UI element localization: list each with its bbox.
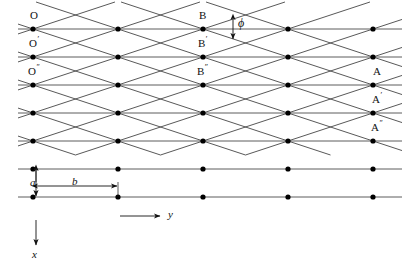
lattice-point-r5-c0 (30, 166, 35, 171)
lattice-point-r5-c2 (200, 166, 205, 171)
lattice-point-r2-c2 (200, 82, 205, 87)
lattice-point-r3-c0 (30, 110, 35, 115)
lattice-point-r3-c4 (370, 110, 375, 115)
label-B-double-prime: B″ (197, 64, 208, 77)
lattice-point-r6-c4 (370, 194, 375, 199)
lattice-point-r0-c3 (285, 26, 290, 31)
lattice-point-r1-c1 (115, 54, 120, 59)
lattice-point-r3-c2 (200, 110, 205, 115)
lattice-point-r1-c4 (370, 54, 375, 59)
lattice-point-r6-c0 (30, 194, 35, 199)
lattice-point-r4-c3 (285, 138, 290, 143)
label-A-double-prime: A″ (371, 120, 382, 133)
label-B-prime: B′ (198, 36, 207, 49)
lattice-point-r0-c4 (370, 26, 375, 31)
figure-canvas: O O′ O″ B B′ B″ A A′ A″ ϕ a b y x (0, 0, 410, 266)
lattice-point-r1-c2 (200, 54, 205, 59)
lattice-point-r4-c1 (115, 138, 120, 143)
label-O-prime: O′ (29, 36, 39, 49)
lattice-point-r3-c1 (115, 110, 120, 115)
lattice-point-r2-c4 (370, 82, 375, 87)
lattice-point-r0-c0 (30, 26, 35, 31)
lattice-point-r2-c3 (285, 82, 290, 87)
angle-phi-label: ϕ (238, 17, 244, 29)
lattice-point-r0-c2 (200, 26, 205, 31)
lattice-point-r5-c4 (370, 166, 375, 171)
lattice-point-r3-c3 (285, 110, 290, 115)
spacing-a-label: a (30, 177, 36, 188)
lattice-point-r6-c2 (200, 194, 205, 199)
lattice-point-r6-c3 (285, 194, 290, 199)
label-A-prime: A′ (372, 92, 382, 105)
label-O-double-prime: O″ (28, 64, 39, 77)
lattice-point-r1-c3 (285, 54, 290, 59)
lattice-point-r2-c1 (115, 82, 120, 87)
label-O: O (30, 8, 38, 21)
lattice-point-r1-c0 (30, 54, 35, 59)
axis-x-label: x (32, 249, 37, 260)
lattice-point-r5-c1 (115, 166, 120, 171)
lattice-point-r4-c2 (200, 138, 205, 143)
lattice-point-r4-c4 (370, 138, 375, 143)
lattice-point-r2-c0 (30, 82, 35, 87)
lattice-point-r0-c1 (115, 26, 120, 31)
label-A: A (373, 64, 381, 77)
lattice-point-r4-c0 (30, 138, 35, 143)
spacing-b-label: b (72, 176, 78, 187)
lattice-point-r5-c3 (285, 166, 290, 171)
axis-y-label: y (168, 209, 173, 220)
label-B: B (199, 8, 206, 21)
